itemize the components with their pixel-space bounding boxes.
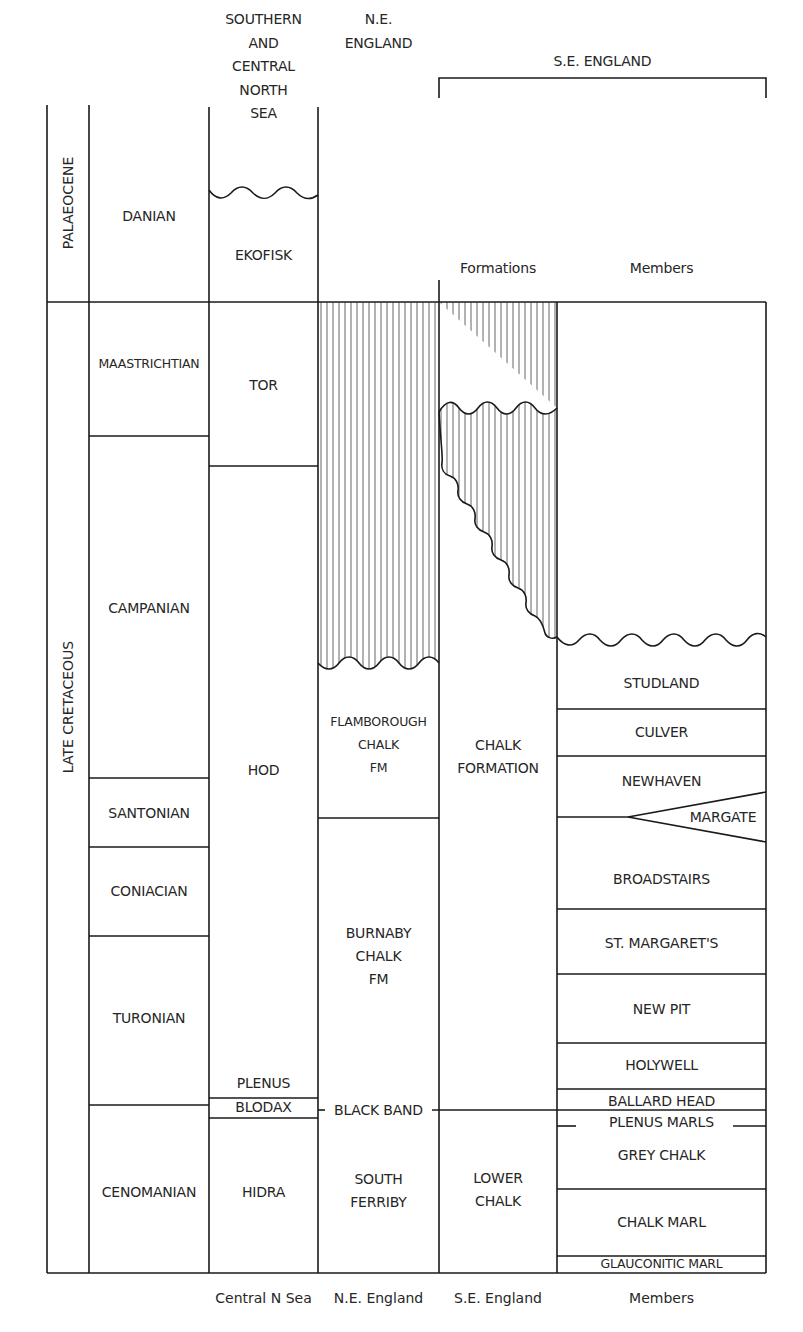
unit-plenus: PLENUS: [209, 1072, 318, 1095]
member-holywell: HOLYWELL: [557, 1054, 766, 1077]
header-members: Members: [557, 257, 766, 280]
header-ne-england: N.E. ENGLAND: [318, 8, 439, 55]
unit-burnaby-chalk: BURNABY CHALK FM: [318, 922, 439, 991]
unit-south-ferriby: SOUTH FERRIBY: [318, 1168, 439, 1214]
member-studland: STUDLAND: [557, 672, 766, 695]
member-culver: CULVER: [557, 721, 766, 744]
member-ballard-head: BALLARD HEAD: [557, 1091, 766, 1111]
footer-members: Members: [557, 1290, 766, 1306]
ne-england-hiatus: [318, 302, 439, 669]
member-broadstairs: BROADSTAIRS: [557, 868, 766, 891]
unit-blodax: BLODAX: [209, 1097, 318, 1117]
stratigraphic-correlation-diagram: [0, 0, 803, 1332]
footer-se-england: S.E. England: [439, 1290, 557, 1306]
unit-tor: TOR: [209, 374, 318, 397]
unit-hod: HOD: [209, 759, 318, 782]
member-margate: MARGATE: [680, 806, 766, 829]
member-newhaven: NEWHAVEN: [557, 770, 766, 793]
member-grey-chalk: GREY CHALK: [557, 1144, 766, 1167]
footer-ne-england: N.E. England: [318, 1290, 439, 1306]
stage-coniacian: CONIACIAN: [89, 880, 209, 903]
member-glauconitic-marl: GLAUCONITIC MARL: [557, 1254, 766, 1272]
member-new-pit: NEW PIT: [557, 998, 766, 1021]
stage-campanian: CAMPANIAN: [89, 597, 209, 620]
members-unconformity: [557, 634, 766, 646]
unit-ekofisk: EKOFISK: [209, 244, 318, 267]
unit-hidra: HIDRA: [209, 1181, 318, 1204]
stage-maastrichtian: MAASTRICHTIAN: [89, 352, 209, 375]
north-sea-unconformity: [209, 187, 318, 199]
header-formations: Formations: [439, 257, 557, 280]
stage-danian: DANIAN: [89, 205, 209, 228]
member-chalk-marl: CHALK MARL: [557, 1211, 766, 1234]
stage-cenomanian: CENOMANIAN: [89, 1181, 209, 1204]
footer-central-n-sea: Central N Sea: [205, 1290, 322, 1306]
epoch-palaeocene: PALAEOCENE: [58, 143, 78, 263]
member-st-margarets: ST. MARGARET'S: [557, 932, 766, 955]
unit-flamborough-chalk: FLAMBOROUGH CHALK FM: [316, 710, 441, 779]
formation-lower-chalk: LOWER CHALK: [439, 1167, 557, 1213]
stage-santonian: SANTONIAN: [89, 802, 209, 825]
unit-black-band: BLACK BAND: [318, 1099, 439, 1121]
stage-turonian: TURONIAN: [89, 1007, 209, 1030]
member-plenus-marls: PLENUS MARLS: [557, 1112, 766, 1132]
header-se-england: S.E. ENGLAND: [439, 50, 766, 73]
epoch-late-cretaceous: LATE CRETACEOUS: [58, 627, 78, 787]
formation-chalk: CHALK FORMATION: [439, 734, 557, 780]
header-north-sea: SOUTHERN AND CENTRAL NORTH SEA: [209, 8, 318, 126]
se-formations-hiatus: [439, 302, 557, 638]
hiatus-areas: [318, 302, 557, 669]
